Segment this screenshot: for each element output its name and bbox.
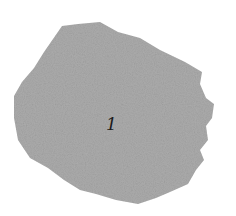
gray-textured-blob	[0, 0, 236, 216]
figure-label: 1	[106, 116, 117, 133]
